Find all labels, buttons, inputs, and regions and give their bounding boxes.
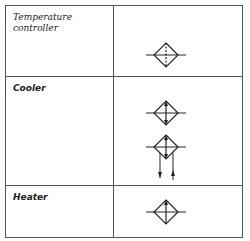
row-label-heater: Heater <box>13 192 48 203</box>
row-label-cooler: Cooler <box>13 83 46 94</box>
label-line: controller <box>13 23 72 34</box>
row-label-temperature-controller: Temperature controller <box>13 12 72 34</box>
label-line: Temperature <box>13 12 72 23</box>
cooler-with-flow-symbol-icon <box>146 132 186 182</box>
row-divider <box>6 76 242 77</box>
temperature-controller-symbol-icon <box>146 40 186 70</box>
column-divider <box>113 6 114 237</box>
row-divider <box>6 185 242 186</box>
heater-symbol-icon <box>146 197 186 227</box>
symbol-table: Temperature controller Cooler Heater <box>5 5 243 238</box>
cooler-symbol-icon <box>146 98 186 128</box>
